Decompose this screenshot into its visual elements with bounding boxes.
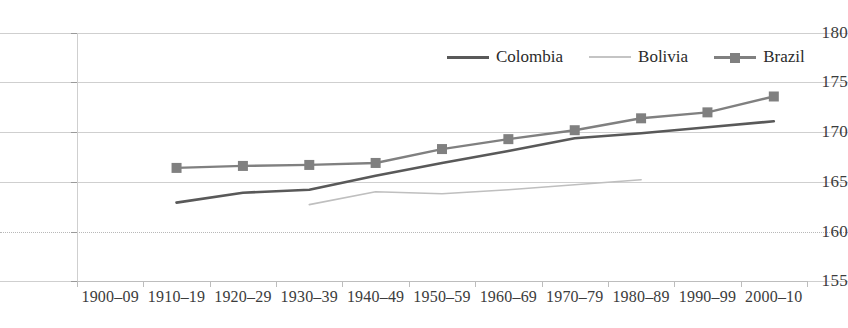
line-icon [589, 51, 631, 63]
legend-item-brazil[interactable]: Brazil [714, 47, 805, 67]
legend-item-bolivia[interactable]: Bolivia [589, 47, 688, 67]
series-line-bolivia [309, 180, 641, 205]
legend-label-brazil: Brazil [763, 47, 805, 67]
legend-label-bolivia: Bolivia [638, 47, 688, 67]
data-point-brazil-3 [371, 158, 381, 168]
line-icon [447, 51, 489, 63]
line-square-icon [714, 51, 756, 63]
data-point-brazil-1 [238, 161, 248, 171]
data-point-brazil-9 [769, 91, 779, 101]
line-chart: 180 175 170 165 160 155 1900–091910–1919… [0, 0, 848, 328]
data-point-brazil-5 [503, 134, 513, 144]
legend-label-colombia: Colombia [496, 47, 563, 67]
legend-item-colombia[interactable]: Colombia [447, 47, 563, 67]
data-point-brazil-0 [172, 163, 182, 173]
data-point-brazil-6 [570, 125, 580, 135]
chart-legend: Colombia Bolivia Brazil [447, 47, 805, 67]
series-line-colombia [177, 121, 774, 202]
data-point-brazil-4 [437, 144, 447, 154]
data-point-brazil-8 [702, 107, 712, 117]
data-point-brazil-7 [636, 113, 646, 123]
data-point-brazil-2 [304, 160, 314, 170]
